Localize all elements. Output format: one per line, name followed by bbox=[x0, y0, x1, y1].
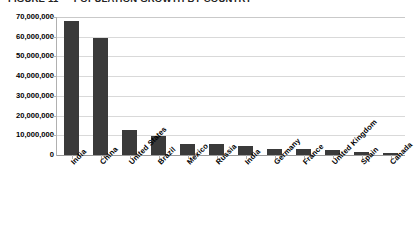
y-axis-tick-label: 60,000,000 bbox=[0, 33, 54, 41]
y-axis-tick-label: 70,000,000 bbox=[0, 13, 54, 21]
bar bbox=[93, 38, 108, 155]
chart-title: FIGURE 11 — POPULATION GROWTH BY COUNTRY bbox=[8, 0, 408, 3]
y-axis-tick-label: 0 bbox=[0, 151, 54, 159]
y-axis-tick-label: 40,000,000 bbox=[0, 72, 54, 80]
y-axis-tick-label: 10,000,000 bbox=[0, 131, 54, 139]
bars-layer bbox=[57, 17, 405, 155]
x-axis-label-group: IndiaChinaUnited StatesBrazilMexicoRussi… bbox=[0, 160, 412, 233]
y-axis-tick-label: 30,000,000 bbox=[0, 92, 54, 100]
bar bbox=[64, 21, 79, 155]
y-axis-tick-label: 50,000,000 bbox=[0, 52, 54, 60]
y-axis-tick-label: 20,000,000 bbox=[0, 112, 54, 120]
